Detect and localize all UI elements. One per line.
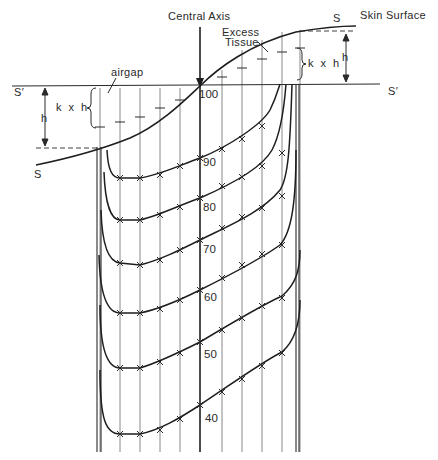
s-prime-right-label: S′: [388, 85, 398, 97]
isodose-label-50: 50: [204, 348, 217, 360]
s-prime-line: [12, 84, 380, 86]
airgap-label: airgap: [111, 66, 143, 78]
isodose-70: [101, 84, 292, 265]
h-left-label: h: [41, 112, 47, 124]
isodose-diagram: Central Axis S Skin Surface Excess Tissu…: [0, 0, 438, 460]
isodose-90: [107, 84, 280, 178]
isodose-x-markers: [117, 123, 285, 437]
isodose-label-90: 90: [203, 156, 216, 168]
s-left-label: S: [34, 168, 42, 180]
skin-surface-curve: [36, 26, 356, 165]
excess-tissue-label-2: Tissue: [225, 36, 259, 48]
isodose-label-70: 70: [203, 243, 216, 255]
isodose-label-100: 100: [199, 88, 218, 100]
k-x-h-left-label: k x h: [56, 101, 89, 113]
h-right-label: h: [342, 51, 348, 63]
s-prime-left-label: S′: [14, 86, 24, 98]
isodose-label-60: 60: [204, 291, 217, 303]
central-axis-label: Central Axis: [168, 10, 230, 22]
isodose-60: [99, 150, 296, 313]
isodose-label-40: 40: [205, 412, 218, 424]
isodose-80: [104, 84, 286, 220]
brace-right: [297, 48, 306, 80]
isodose-label-80: 80: [203, 201, 216, 213]
s-right-label: S: [333, 12, 341, 24]
k-x-h-right-label: k x h: [308, 57, 341, 69]
skin-surface-label: Skin Surface: [360, 9, 426, 21]
